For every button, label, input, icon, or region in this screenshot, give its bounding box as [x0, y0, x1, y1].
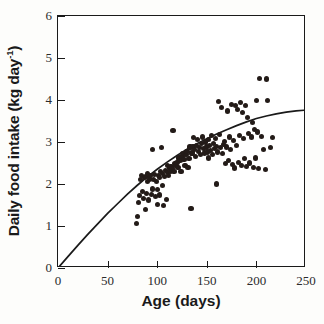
y-axis-tick [58, 226, 65, 227]
data-point [178, 169, 183, 174]
data-point [157, 192, 162, 197]
y-axis-tick-label: 0 [46, 260, 53, 276]
data-point [225, 108, 230, 113]
x-axis-tick-label: 150 [197, 273, 217, 289]
data-point [186, 156, 191, 161]
data-point [222, 139, 227, 144]
x-axis-tick [157, 261, 158, 268]
data-point [143, 207, 148, 212]
x-axis-tick-label: 50 [101, 273, 114, 289]
y-axis-tick-label: 6 [46, 8, 53, 24]
x-axis-tick [108, 261, 109, 268]
data-point [259, 134, 264, 139]
x-axis-tick-label: 0 [55, 273, 62, 289]
x-axis-title: Age (days) [141, 292, 220, 310]
x-axis-tick-label: 200 [247, 273, 267, 289]
y-axis-tick [58, 100, 65, 101]
data-point [150, 147, 155, 152]
plot-frame: 0123456050100150200250 [57, 15, 305, 267]
data-point [188, 206, 193, 211]
data-point [249, 134, 254, 139]
x-axis-tick [256, 261, 257, 268]
y-axis-tick [58, 16, 65, 17]
scatter-plot-figure: Daily food intake (kg day-1) Age (days) … [0, 0, 324, 324]
y-axis-tick-label: 3 [46, 134, 53, 150]
data-point [214, 181, 219, 186]
data-point [146, 197, 151, 202]
y-axis-tick [58, 142, 65, 143]
data-point [264, 76, 269, 81]
fitted-curve [58, 16, 304, 266]
y-axis-title-exponent: -1 [4, 51, 15, 59]
y-axis-tick-label: 1 [46, 218, 53, 234]
data-point [170, 128, 175, 133]
y-axis-tick-label: 4 [46, 92, 53, 108]
data-point [232, 165, 237, 170]
y-axis-tick [58, 184, 65, 185]
fitted-curve-line [58, 110, 304, 266]
data-point [261, 147, 266, 152]
y-axis-title: Daily food intake (kg day-1) [4, 46, 23, 237]
y-axis-tick [58, 58, 65, 59]
x-axis-tick [207, 261, 208, 268]
data-point [160, 183, 165, 188]
y-axis-tick-label: 5 [46, 50, 53, 66]
x-axis-tick-label: 250 [296, 273, 316, 289]
data-point [164, 197, 169, 202]
y-axis-title-tail: ) [5, 46, 22, 51]
plot-area [58, 16, 304, 266]
y-axis-title-main: Daily food intake (kg day [5, 59, 22, 237]
x-axis-tick-label: 100 [147, 273, 167, 289]
y-axis-tick [58, 268, 65, 269]
data-point [257, 76, 262, 81]
data-point [155, 202, 160, 207]
data-point [185, 165, 190, 170]
y-axis-tick-label: 2 [46, 176, 53, 192]
data-point [253, 155, 258, 160]
